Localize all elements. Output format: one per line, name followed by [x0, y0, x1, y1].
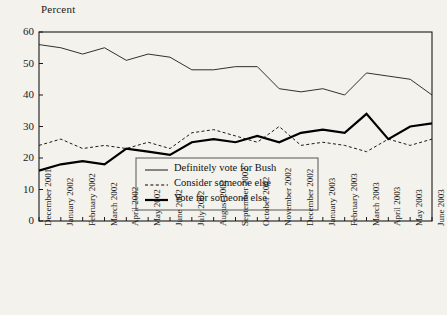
- x-axis-tick-label: May 2002: [152, 189, 162, 226]
- x-axis-tick-label: April 2002: [130, 187, 140, 226]
- x-axis-tick-label: January 2002: [65, 178, 75, 226]
- x-axis-tick-label: December 2001: [43, 169, 53, 226]
- x-axis-tick-label: April 2003: [392, 187, 402, 226]
- legend-label: Vote for someone else: [174, 192, 267, 203]
- series-line: [39, 127, 432, 152]
- y-axis-tick-label: 10: [12, 183, 34, 195]
- y-axis-tick-label: 30: [12, 120, 34, 132]
- x-axis-tick-label: March 2002: [109, 182, 119, 226]
- y-axis-tick-label: 60: [12, 25, 34, 37]
- x-axis-tick-label: February 2003: [349, 173, 359, 226]
- x-axis-tick-label: November 2002: [283, 168, 293, 226]
- x-axis-tick-label: May 2003: [414, 189, 424, 226]
- plot-canvas: [0, 0, 447, 315]
- y-axis-tick-label: 20: [12, 151, 34, 163]
- x-axis-tick-label: June 2003: [436, 189, 446, 226]
- x-axis-tick-label: January 2003: [327, 178, 337, 226]
- legend-label: Consider someone else: [174, 177, 271, 188]
- x-axis-tick-label: December 2002: [305, 169, 315, 226]
- x-axis-tick-label: February 2002: [87, 173, 97, 226]
- y-axis-tick-label: 50: [12, 57, 34, 69]
- chart-figure: Percent 0102030405060 December 2001Janua…: [0, 0, 447, 315]
- x-axis-tick-label: March 2003: [371, 182, 381, 226]
- y-axis-tick-label: 40: [12, 88, 34, 100]
- series-line: [39, 45, 432, 95]
- y-axis-tick-label: 0: [12, 214, 34, 226]
- legend-label: Definitely vote for Bush: [174, 162, 276, 173]
